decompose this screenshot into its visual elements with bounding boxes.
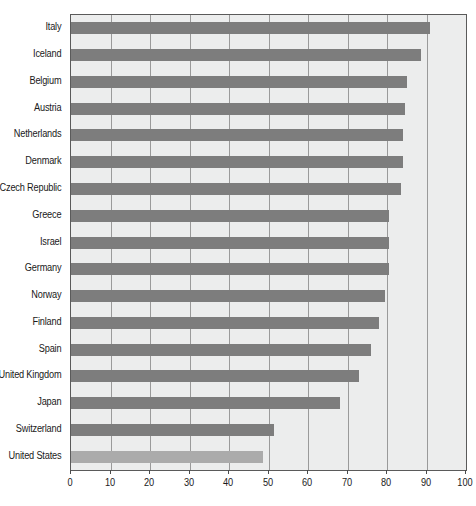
- bar-row: [71, 202, 466, 229]
- axis-tick: [149, 470, 150, 474]
- bar-row: [71, 416, 466, 443]
- bar: [71, 344, 371, 356]
- axis-tick: [189, 470, 190, 474]
- category-label: Czech Republic: [5, 175, 66, 202]
- bar-chart: ItalyIcelandBelgiumAustriaNetherlandsDen…: [0, 0, 476, 506]
- axis-tick-label: 100: [457, 477, 472, 488]
- bar-row: [71, 42, 466, 69]
- axis-tick-label: 70: [341, 477, 351, 488]
- category-label: Greece: [5, 201, 66, 228]
- category-label: Austria: [5, 94, 66, 121]
- bar: [71, 290, 385, 302]
- bar-row: [71, 390, 466, 417]
- bar: [71, 263, 389, 275]
- bar-row: [71, 256, 466, 283]
- bar: [71, 451, 263, 463]
- bar: [71, 370, 359, 382]
- axis-tick: [228, 470, 229, 474]
- axis-tick: [347, 470, 348, 474]
- category-axis-labels: ItalyIcelandBelgiumAustriaNetherlandsDen…: [0, 14, 66, 469]
- bar-row: [71, 229, 466, 256]
- bar-row: [71, 363, 466, 390]
- axis-tick-label: 0: [67, 477, 72, 488]
- category-label: Switzerland: [5, 415, 66, 442]
- axis-tick-label: 60: [302, 477, 312, 488]
- bar: [71, 49, 421, 61]
- category-label: United States: [5, 442, 66, 469]
- axis-tick-label: 30: [183, 477, 193, 488]
- bar-row: [71, 336, 466, 363]
- category-label: Denmark: [5, 148, 66, 175]
- axis-tick-label: 10: [104, 477, 114, 488]
- category-label: Finland: [5, 308, 66, 335]
- axis-tick-label: 90: [420, 477, 430, 488]
- axis-tick-label: 20: [144, 477, 154, 488]
- category-label: Norway: [5, 282, 66, 309]
- axis-tick-label: 40: [223, 477, 233, 488]
- bar-row: [71, 95, 466, 122]
- bar: [71, 103, 405, 115]
- bar: [71, 183, 401, 195]
- bar-row: [71, 15, 466, 42]
- bar-row: [71, 176, 466, 203]
- value-axis: 0102030405060708090100: [70, 470, 467, 506]
- category-label: United Kingdom: [5, 362, 66, 389]
- category-label: Netherlands: [5, 121, 66, 148]
- category-label: Japan: [5, 389, 66, 416]
- bar: [71, 397, 340, 409]
- bar-row: [71, 309, 466, 336]
- bar: [71, 76, 407, 88]
- plot-area: [70, 14, 467, 471]
- axis-tick-label: 80: [381, 477, 391, 488]
- axis-tick: [386, 470, 387, 474]
- category-label: Israel: [5, 228, 66, 255]
- bar: [71, 317, 379, 329]
- bar: [71, 22, 430, 34]
- category-label: Iceland: [5, 41, 66, 68]
- bar: [71, 424, 274, 436]
- bar-row: [71, 283, 466, 310]
- category-label: Germany: [5, 255, 66, 282]
- bar-row: [71, 149, 466, 176]
- bar: [71, 210, 389, 222]
- bar-row: [71, 69, 466, 96]
- axis-tick: [70, 470, 71, 474]
- axis-tick: [268, 470, 269, 474]
- bar: [71, 237, 389, 249]
- axis-tick-label: 50: [262, 477, 272, 488]
- category-label: Belgium: [5, 68, 66, 95]
- axis-tick: [110, 470, 111, 474]
- category-label: Spain: [5, 335, 66, 362]
- axis-tick: [465, 470, 466, 474]
- bar-row: [71, 122, 466, 149]
- bar-row: [71, 443, 466, 470]
- axis-tick: [426, 470, 427, 474]
- category-label: Italy: [5, 14, 66, 41]
- bar: [71, 156, 403, 168]
- bar-series: [71, 15, 466, 470]
- bar: [71, 129, 403, 141]
- axis-tick: [307, 470, 308, 474]
